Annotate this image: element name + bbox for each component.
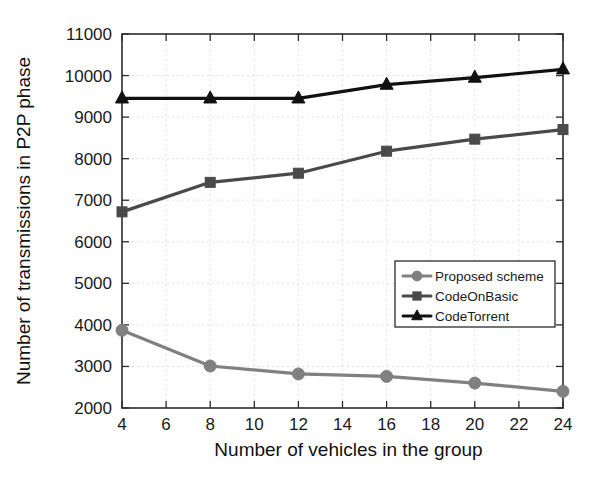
marker-circle (469, 377, 481, 389)
chart-figure: 2000300040005000600070008000900010000110… (0, 0, 604, 484)
x-tick-label: 12 (289, 415, 308, 434)
marker-circle (381, 370, 393, 382)
legend-label: CodeOnBasic (435, 289, 519, 304)
y-tick-label: 4000 (74, 316, 112, 335)
x-tick-label: 16 (377, 415, 396, 434)
marker-circle (204, 360, 216, 372)
marker-circle (557, 385, 569, 397)
x-tick-label: 14 (333, 415, 352, 434)
y-tick-label: 5000 (74, 274, 112, 293)
marker-circle (292, 368, 304, 380)
x-tick-label: 22 (509, 415, 528, 434)
y-axis-title: Number of transmissions in P2P phase (13, 57, 34, 385)
y-tick-label: 9000 (74, 108, 112, 127)
line-chart-canvas: 2000300040005000600070008000900010000110… (0, 0, 604, 484)
y-tick-label: 3000 (74, 357, 112, 376)
marker-square (117, 207, 127, 217)
x-tick-label: 8 (205, 415, 214, 434)
y-tick-label: 2000 (74, 399, 112, 418)
y-tick-label: 7000 (74, 191, 112, 210)
y-tick-label: 8000 (74, 150, 112, 169)
marker-square (470, 134, 480, 144)
x-axis-title: Number of vehicles in the group (214, 439, 482, 460)
legend-label: CodeTorrent (435, 309, 510, 324)
x-tick-label: 24 (554, 415, 573, 434)
marker-square (382, 146, 392, 156)
marker-square (205, 177, 215, 187)
marker-circle (116, 324, 128, 336)
marker-square (293, 168, 303, 178)
marker-triangle (557, 62, 570, 74)
series-codetorrent (116, 62, 570, 103)
x-tick-label: 18 (421, 415, 440, 434)
legend: Proposed schemeCodeOnBasicCodeTorrent (395, 261, 555, 327)
y-tick-label: 11000 (66, 25, 112, 44)
marker-square (558, 125, 568, 135)
marker-square (413, 292, 421, 300)
y-tick-label: 10000 (65, 67, 112, 86)
x-tick-label: 10 (245, 415, 264, 434)
legend-label: Proposed scheme (435, 269, 544, 284)
x-tick-label: 6 (161, 415, 170, 434)
x-tick-label: 4 (117, 415, 126, 434)
y-tick-label: 6000 (74, 233, 112, 252)
x-tick-label: 20 (465, 415, 484, 434)
marker-circle (412, 271, 422, 281)
